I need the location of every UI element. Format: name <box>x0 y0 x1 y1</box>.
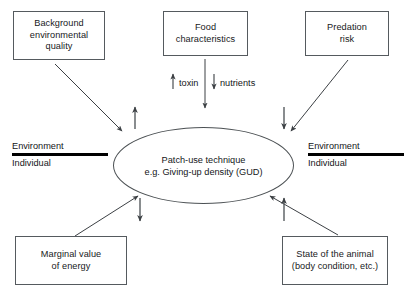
node-background-environmental-quality[interactable]: Backgroundenvironmentalquality <box>13 11 105 60</box>
node-patch-use-technique[interactable]: Patch-use techniquee.g. Giving-up densit… <box>113 127 294 204</box>
node-label: Predationrisk <box>306 22 388 45</box>
connector-background-to-center <box>55 64 122 131</box>
flux-label-nutrients: nutrients <box>220 78 255 89</box>
node-label: Foodcharacteristics <box>164 22 247 45</box>
divider-left-above-label: Environment <box>12 140 108 152</box>
node-label: State of the animal(body condition, etc.… <box>283 249 387 272</box>
node-label: Patch-use techniquee.g. Giving-up densit… <box>114 154 293 178</box>
node-state-of-the-animal[interactable]: State of the animal(body condition, etc.… <box>282 236 388 285</box>
divider-left-rule <box>12 153 108 156</box>
node-marginal-value-of-energy[interactable]: Marginal valueof energy <box>15 236 127 285</box>
diagram-canvas: Backgroundenvironmentalquality Foodchara… <box>0 0 405 298</box>
flux-label-toxin: toxin <box>179 78 198 89</box>
divider-right-above-label: Environment <box>308 140 404 152</box>
divider-right: Environment Individual <box>308 140 404 169</box>
connector-marginal-to-center <box>75 196 138 236</box>
connector-predation-to-center <box>291 60 348 131</box>
divider-left-below-label: Individual <box>12 157 108 169</box>
divider-right-rule <box>308 153 404 156</box>
node-label: Backgroundenvironmentalquality <box>14 18 104 52</box>
divider-left: Environment Individual <box>12 140 108 169</box>
connector-state-to-center <box>270 196 338 235</box>
divider-right-below-label: Individual <box>308 157 404 169</box>
node-label: Marginal valueof energy <box>16 249 126 272</box>
node-food-characteristics[interactable]: Foodcharacteristics <box>163 11 248 56</box>
node-predation-risk[interactable]: Predationrisk <box>305 11 389 56</box>
